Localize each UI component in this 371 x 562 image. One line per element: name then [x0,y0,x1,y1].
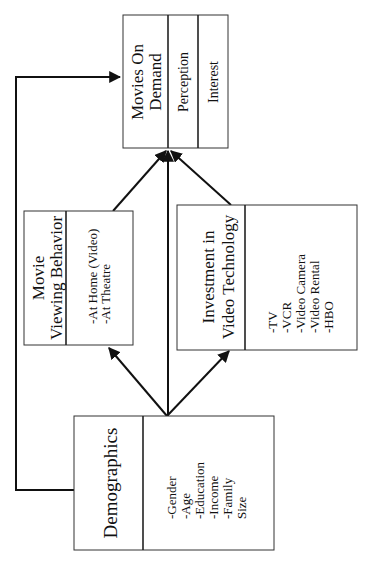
demographics-item: -Education [192,461,207,519]
node-demographics: Demographics -Gender -Age -Education -In… [74,416,274,550]
edge-demographics-to-investment [167,351,229,416]
investment-title-line1: Investment in [199,230,218,324]
node-movies-on-demand: Movies On Demand Perception Interest [123,15,228,148]
demographics-item: Size [234,496,249,519]
investment-item: -Video Camera [293,254,308,333]
investment-item: -HBO [321,301,336,333]
demographics-title: Demographics [100,428,121,539]
edge-demographics-to-viewing [109,348,167,416]
mod-interest: Interest [206,61,221,103]
mod-perception: Perception [176,52,191,112]
investment-item: -VCR [279,302,294,333]
mod-title-line1: Movies On [128,43,147,120]
edge-investment-to-mod [171,151,231,205]
demographics-item: -Age [178,493,193,519]
diagram-canvas: Movies On Demand Perception Interest Mov… [0,0,371,562]
viewing-title-line1: Movie [29,256,48,300]
demographics-item: -Gender [164,476,179,519]
demographics-item: -Family [220,477,235,519]
edge-viewing-to-mod [113,151,166,211]
demographics-item: -Income [206,475,221,519]
investment-title-line2: Video Technology [219,214,238,339]
mod-title-line2: Demand [146,53,165,111]
viewing-item: -At Theatre [98,264,113,324]
viewing-title-line2: Viewing Behavior [47,216,66,340]
node-movie-viewing-behavior: Movie Viewing Behavior -At Home (Video) … [24,211,133,345]
investment-item: -TV [265,311,280,333]
investment-item: -Video Rental [307,260,322,333]
node-investment-video-technology: Investment in Video Technology -TV -VCR … [177,205,357,350]
